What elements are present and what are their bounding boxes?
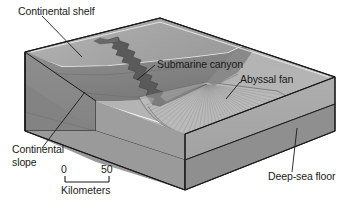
figure-canvas: Continental shelf Submarine canyon Abyss… bbox=[0, 0, 357, 210]
label-abyssal-fan: Abyssal fan bbox=[240, 73, 293, 85]
scale-bar-graphic bbox=[65, 176, 109, 182]
label-submarine-canyon: Submarine canyon bbox=[157, 58, 243, 70]
label-continental-shelf: Continental shelf bbox=[18, 5, 95, 17]
scale-bar-min-label: 0 bbox=[61, 163, 67, 175]
label-deep-sea-floor: Deep-sea floor bbox=[268, 170, 335, 182]
label-continental-slope: Continental slope bbox=[12, 143, 64, 168]
scale-bar-units-label: Kilometers bbox=[61, 184, 111, 196]
scale-bar-max-label: 50 bbox=[101, 163, 113, 175]
